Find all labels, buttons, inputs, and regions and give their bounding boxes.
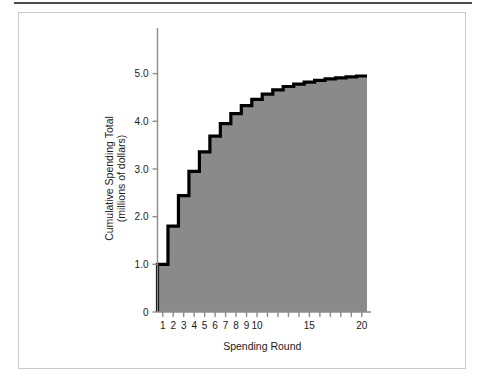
x-axis-tick-labels: 123456789101520 [160, 320, 368, 331]
y-tick-label-0: 0 [143, 307, 149, 318]
x-tick-label-4: 4 [191, 320, 197, 331]
y-axis-title-line-2: (millions of dollars) [115, 135, 127, 223]
cumulative-spending-step-chart: 01.02.03.04.05.0 123456789101520 Spendin… [0, 0, 486, 383]
y-tick-label-2.0: 2.0 [135, 211, 149, 222]
chart-plot-stage: 01.02.03.04.05.0 123456789101520 Spendin… [0, 0, 486, 383]
x-axis-ticks [163, 312, 362, 317]
figure-root: 01.02.03.04.05.0 123456789101520 Spendin… [0, 0, 486, 383]
y-axis-tick-labels: 01.02.03.04.05.0 [135, 68, 149, 317]
x-tick-label-7: 7 [223, 320, 229, 331]
x-tick-label-9: 9 [244, 320, 250, 331]
x-tick-label-5: 5 [202, 320, 208, 331]
y-tick-label-1.0: 1.0 [135, 259, 149, 270]
x-tick-label-8: 8 [233, 320, 239, 331]
x-axis-title: Spending Round [223, 340, 301, 352]
x-tick-label-1: 1 [160, 320, 166, 331]
x-tick-label-6: 6 [212, 320, 218, 331]
y-tick-label-3.0: 3.0 [135, 164, 149, 175]
x-tick-label-20: 20 [356, 320, 368, 331]
y-tick-label-4.0: 4.0 [135, 116, 149, 127]
x-tick-label-3: 3 [181, 320, 187, 331]
y-axis-title: Cumulative Spending Total (millions of d… [103, 116, 127, 241]
y-axis-title-line-1: Cumulative Spending Total [103, 116, 115, 241]
x-tick-label-2: 2 [170, 320, 176, 331]
x-tick-label-10: 10 [251, 320, 263, 331]
x-tick-label-15: 15 [304, 320, 316, 331]
y-tick-label-5.0: 5.0 [135, 68, 149, 79]
